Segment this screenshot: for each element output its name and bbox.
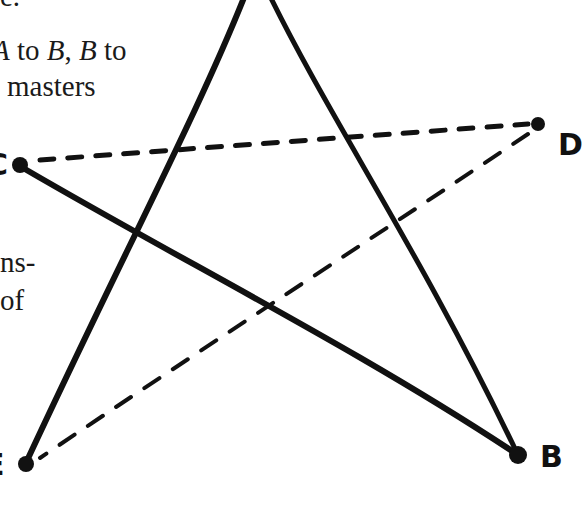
label-b: B <box>540 442 563 472</box>
edge-a-b <box>267 0 518 455</box>
edge-d-e <box>40 134 528 458</box>
point-d-dot <box>531 117 545 131</box>
edge-c-d <box>40 124 528 160</box>
point-b-dot <box>509 446 527 464</box>
point-c-dot <box>12 157 28 173</box>
pentagram-diagram <box>0 0 587 516</box>
label-d: D <box>558 130 583 160</box>
label-e: E <box>0 450 5 480</box>
point-e-dot <box>18 456 34 472</box>
label-c: C <box>0 150 8 180</box>
